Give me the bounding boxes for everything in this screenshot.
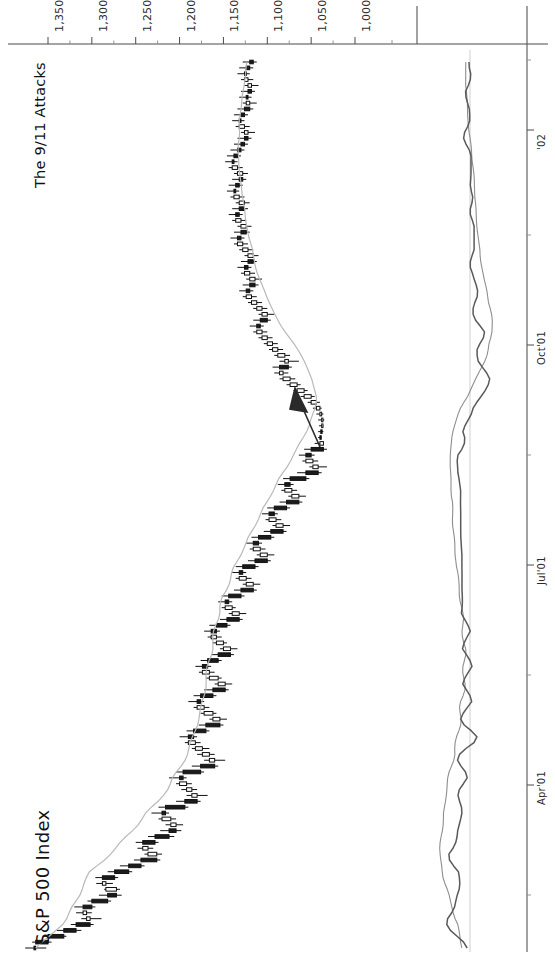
sp500-rotated-chart — [0, 0, 555, 955]
price-tick-label: 1,300 — [97, 0, 110, 32]
annotation-label: The 9/11 Attacks — [32, 62, 48, 188]
price-tick-label: 1,150 — [228, 0, 241, 32]
price-bars-group — [25, 60, 327, 950]
chart-canvas: 1,3501,3001,2501,2001,1501,1001,0501,000… — [0, 0, 555, 955]
chart-title: S&P 500 Index — [32, 809, 53, 945]
date-tick-label: Jul'01 — [536, 556, 547, 585]
price-tick-label: 1,050 — [316, 0, 329, 32]
price-tick-label: 1,250 — [141, 0, 154, 32]
price-tick-label: 1,000 — [360, 0, 373, 32]
date-tick-label: Apr'01 — [536, 771, 547, 805]
date-tick-label: '02 — [536, 134, 547, 150]
moving-average-line — [36, 62, 317, 948]
oscillator-fast-line — [447, 62, 490, 948]
price-tick-label: 1,200 — [185, 0, 198, 32]
indicator-panel-group — [440, 50, 493, 952]
price-tick-label: 1,100 — [272, 0, 285, 32]
oscillator-slow-line — [440, 62, 493, 948]
date-tick-label: Oct'01 — [536, 331, 547, 365]
price-tick-label: 1,350 — [53, 0, 66, 32]
